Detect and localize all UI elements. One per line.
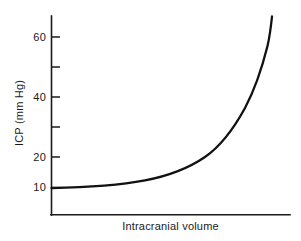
y-axis-title: ICP (mm Hg) (13, 58, 25, 168)
chart-figure: 60 40 20 10 ICP (mm Hg) Intracranial vol… (0, 0, 301, 241)
y-tick-label-10: 10 (24, 182, 46, 193)
y-tick-label-60: 60 (24, 32, 46, 43)
x-axis-title: Intracranial volume (51, 220, 290, 233)
y-tick-label-20: 20 (24, 152, 46, 163)
y-tick-label-40: 40 (24, 92, 46, 103)
